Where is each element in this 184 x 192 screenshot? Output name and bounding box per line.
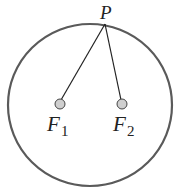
segment-p-f1	[61, 24, 105, 100]
ellipse-outline	[8, 24, 172, 186]
ellipse-diagram: P F 1 F 2	[0, 0, 184, 192]
label-f2: F	[112, 112, 126, 136]
label-f1-subscript: 1	[61, 123, 69, 139]
focus-f2-point	[117, 99, 127, 109]
label-f2-subscript: 2	[127, 123, 135, 139]
label-p: P	[99, 2, 112, 23]
label-f1: F	[46, 112, 60, 136]
segment-p-f2	[105, 24, 121, 100]
focus-f1-point	[55, 99, 65, 109]
